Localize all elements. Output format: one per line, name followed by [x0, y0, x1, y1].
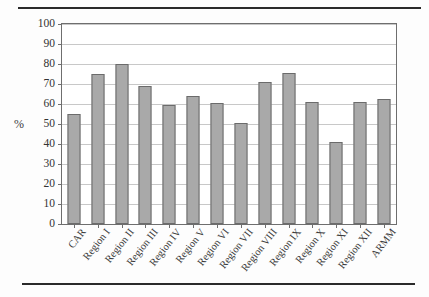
bar[interactable] — [354, 102, 367, 224]
y-tick-label: 10 — [44, 198, 56, 210]
bars-layer — [62, 24, 396, 224]
y-tick-label: 50 — [44, 118, 56, 130]
bar-chart-figure: % 0102030405060708090100 CARRegion IRegi… — [0, 12, 429, 280]
bar[interactable] — [330, 142, 343, 224]
bar[interactable] — [163, 105, 176, 224]
bar-slot — [134, 24, 158, 224]
bar-slot — [348, 24, 372, 224]
y-tick-label: 90 — [44, 38, 56, 50]
bar-slot — [277, 24, 301, 224]
bar[interactable] — [187, 96, 200, 224]
figure-page: % 0102030405060708090100 CARRegion IRegi… — [0, 0, 429, 297]
bar-slot — [110, 24, 134, 224]
bar[interactable] — [211, 103, 224, 224]
y-tick-mark — [58, 224, 62, 225]
x-axis-labels: CARRegion IRegion IIRegion IIIRegion IVR… — [61, 227, 397, 282]
bar-slot — [253, 24, 277, 224]
x-tick-label: CAR — [67, 227, 89, 250]
y-tick-label: 70 — [44, 78, 56, 90]
y-axis-title: % — [8, 117, 30, 132]
bar[interactable] — [67, 114, 80, 224]
bar-slot — [205, 24, 229, 224]
bar[interactable] — [234, 123, 247, 224]
bar-slot — [181, 24, 205, 224]
y-tick-label: 100 — [38, 18, 55, 30]
bottom-horizontal-rule — [22, 283, 415, 285]
bar-slot — [229, 24, 253, 224]
bar-slot — [86, 24, 110, 224]
y-tick-label: 0 — [49, 218, 55, 230]
y-tick-label: 20 — [44, 178, 56, 190]
bar[interactable] — [91, 74, 104, 224]
bar[interactable] — [282, 73, 295, 224]
plot-area: 0102030405060708090100 — [61, 23, 397, 225]
bar[interactable] — [258, 82, 271, 224]
bar[interactable] — [306, 102, 319, 224]
bar-slot — [62, 24, 86, 224]
y-tick-label: 60 — [44, 98, 56, 110]
bar-slot — [301, 24, 325, 224]
top-horizontal-rule — [18, 7, 421, 9]
bar-slot — [157, 24, 181, 224]
y-tick-label: 80 — [44, 58, 56, 70]
bar-slot — [324, 24, 348, 224]
bar[interactable] — [378, 99, 391, 224]
bar-slot — [372, 24, 396, 224]
bar[interactable] — [115, 64, 128, 224]
y-tick-label: 30 — [44, 158, 56, 170]
bar[interactable] — [139, 86, 152, 224]
y-tick-label: 40 — [44, 138, 56, 150]
